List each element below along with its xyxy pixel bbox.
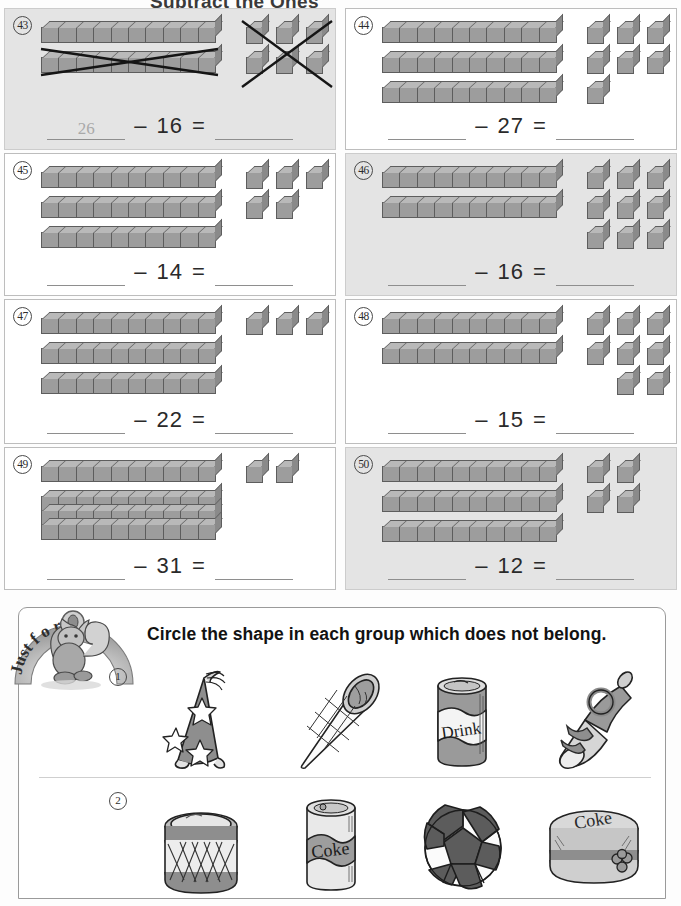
answer-blank[interactable] <box>556 413 634 434</box>
soccer-ball[interactable] <box>408 788 518 900</box>
equation: –12= <box>346 553 676 580</box>
unit-cube <box>587 466 604 483</box>
minuend-blank[interactable] <box>388 119 466 140</box>
base-ten-rod <box>382 172 557 188</box>
minuend-blank[interactable] <box>388 413 466 434</box>
problem-box-48[interactable]: 48–15= <box>345 299 677 444</box>
equals-sign: = <box>533 259 547 286</box>
problem-box-45[interactable]: 45–14= <box>4 153 336 296</box>
answer-blank[interactable] <box>556 265 634 286</box>
problem-box-47[interactable]: 47–22= <box>4 299 336 444</box>
base-ten-rod <box>382 318 557 334</box>
subtrahend: 27 <box>497 113 523 140</box>
problem-number: 44 <box>354 16 373 35</box>
unit-cube <box>647 172 664 189</box>
problem-grid: 4326–16=44–27=45–14=46–16=47–22=48–15=49… <box>4 8 677 590</box>
minuend-blank[interactable] <box>388 559 466 580</box>
problem-box-50[interactable]: 50–12= <box>345 447 677 590</box>
problem-box-46[interactable]: 46–16= <box>345 153 677 296</box>
fun-instruction: Circle the shape in each group which doe… <box>147 624 606 645</box>
party-horn[interactable] <box>539 664 649 776</box>
coke-can[interactable]: Coke <box>277 788 387 900</box>
minuend-blank[interactable] <box>47 559 125 580</box>
base-ten-blocks <box>382 308 670 404</box>
fun-group-2-items: Coke <box>135 784 659 900</box>
fun-group-number: 2 <box>109 792 127 810</box>
worksheet-page: { "page": { "header_partial": "Subtract … <box>0 0 681 906</box>
minuend-blank[interactable] <box>47 413 125 434</box>
party-hat[interactable] <box>146 664 256 776</box>
base-ten-blocks <box>382 456 670 552</box>
cross-out-mark <box>240 19 334 89</box>
subtrahend: 16 <box>156 113 182 140</box>
minus-sign: – <box>475 553 488 580</box>
fun-group-1-items: Drink <box>135 660 659 776</box>
minuend-blank[interactable] <box>388 265 466 286</box>
answer-blank[interactable] <box>556 119 634 140</box>
coke-can-label: Coke <box>310 838 350 862</box>
unit-cube <box>276 318 293 335</box>
unit-cube <box>276 466 293 483</box>
base-ten-rod <box>382 466 557 482</box>
subtrahend: 16 <box>497 259 523 286</box>
just-for-fun-section: Just f o r Fun Circle the shape in each … <box>18 607 666 899</box>
unit-cube <box>617 202 634 219</box>
equals-sign: = <box>192 407 206 434</box>
fun-row-divider <box>39 777 651 778</box>
base-ten-blocks <box>41 308 329 404</box>
unit-cube <box>647 57 664 74</box>
minus-sign: – <box>134 113 147 140</box>
equals-sign: = <box>533 553 547 580</box>
problem-box-49[interactable]: 49–31= <box>4 447 336 590</box>
base-ten-rod <box>41 524 216 540</box>
unit-cube <box>587 496 604 513</box>
ice-cream-cone[interactable] <box>277 664 387 776</box>
equals-sign: = <box>533 407 547 434</box>
answer-blank[interactable] <box>215 413 293 434</box>
equation: –31= <box>5 553 335 580</box>
unit-cube <box>617 348 634 365</box>
drink-can[interactable]: Drink <box>408 664 518 776</box>
problem-number: 45 <box>13 161 32 180</box>
base-ten-rod <box>382 27 557 43</box>
unit-cube <box>246 172 263 189</box>
equals-sign: = <box>192 259 206 286</box>
answer-blank[interactable] <box>556 559 634 580</box>
unit-cube <box>587 87 604 104</box>
minus-sign: – <box>475 113 488 140</box>
base-ten-rod <box>41 232 216 248</box>
unit-cube <box>306 318 323 335</box>
unit-cube <box>617 496 634 513</box>
unit-cube <box>246 466 263 483</box>
answer-blank[interactable] <box>215 119 293 140</box>
base-ten-blocks <box>41 17 329 113</box>
unit-cube <box>647 202 664 219</box>
equation: –22= <box>5 407 335 434</box>
problem-box-44[interactable]: 44–27= <box>345 8 677 150</box>
answer-blank[interactable] <box>215 265 293 286</box>
problem-number: 48 <box>354 307 373 326</box>
unit-cube <box>647 378 664 395</box>
minus-sign: – <box>134 553 147 580</box>
base-ten-rod <box>382 57 557 73</box>
base-ten-rod <box>382 202 557 218</box>
base-ten-blocks <box>382 17 670 113</box>
drum[interactable] <box>146 788 256 900</box>
minuend-blank[interactable]: 26 <box>47 119 125 140</box>
equation: 26–16= <box>5 113 335 140</box>
base-ten-rod <box>382 348 557 364</box>
unit-cube <box>276 172 293 189</box>
minuend-blank[interactable] <box>47 265 125 286</box>
base-ten-blocks <box>41 162 329 258</box>
unit-cube <box>647 318 664 335</box>
base-ten-rod <box>41 348 216 364</box>
problem-box-43[interactable]: 4326–16= <box>4 8 336 150</box>
base-ten-rod <box>41 378 216 394</box>
unit-cube <box>647 232 664 249</box>
base-ten-rod <box>41 202 216 218</box>
base-ten-rod <box>41 27 216 43</box>
unit-cube <box>306 172 323 189</box>
coke-hat-box[interactable]: Coke <box>539 788 649 900</box>
answer-blank[interactable] <box>215 559 293 580</box>
problem-number: 47 <box>13 307 32 326</box>
